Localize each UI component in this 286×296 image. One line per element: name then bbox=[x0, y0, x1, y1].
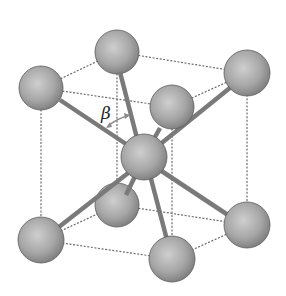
atom-back-top-left bbox=[95, 30, 139, 74]
atom-right-bottom bbox=[224, 202, 270, 248]
atom-back-bottom bbox=[95, 183, 139, 227]
bcc-unit-cell-diagram: β bbox=[0, 0, 286, 296]
atom-left-top bbox=[19, 66, 63, 110]
atom-left-bottom bbox=[18, 217, 64, 263]
atom-front-top bbox=[150, 85, 194, 129]
angle-beta-label: β bbox=[100, 103, 111, 123]
atom-center bbox=[121, 134, 167, 180]
atom-front-bottom bbox=[149, 236, 195, 282]
atom-right-top bbox=[224, 50, 270, 96]
